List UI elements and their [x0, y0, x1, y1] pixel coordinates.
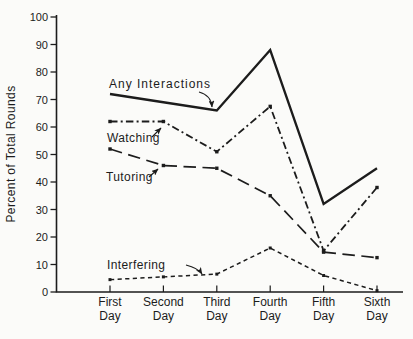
series-point-tutoring — [215, 167, 218, 170]
y-tick-label: 90 — [36, 39, 48, 51]
annotation-arrow — [199, 92, 212, 107]
y-axis-title: Percent of Total Rounds — [4, 85, 18, 222]
x-category-label: Fourth — [253, 295, 288, 309]
series-point-tutoring — [322, 250, 325, 253]
x-category-label-line2: Day — [206, 309, 227, 323]
series-point-interfering — [109, 278, 112, 281]
series-point-watching — [162, 120, 165, 123]
chart-figure: 0102030405060708090100Percent of Total R… — [0, 0, 413, 339]
line-chart: 0102030405060708090100Percent of Total R… — [0, 0, 413, 339]
x-category-label: Third — [203, 295, 230, 309]
x-category-label-line2: Day — [260, 309, 281, 323]
series-point-interfering — [162, 275, 165, 278]
series-point-tutoring — [269, 194, 272, 197]
x-category-label-line2: Day — [366, 309, 387, 323]
series-point-interfering — [215, 273, 218, 276]
y-tick-label: 50 — [36, 149, 48, 161]
x-category-label: First — [98, 295, 122, 309]
series-point-interfering — [322, 274, 325, 277]
series-annotation-label: Watching — [107, 131, 160, 145]
y-tick-label: 0 — [42, 286, 48, 298]
series-point-tutoring — [162, 164, 165, 167]
x-category-label: Second — [143, 295, 184, 309]
x-category-label: Sixth — [364, 295, 391, 309]
y-tick-label: 70 — [36, 94, 48, 106]
series-annotation-label: Tutoring — [106, 170, 153, 184]
y-tick-label: 20 — [36, 231, 48, 243]
x-category-label-line2: Day — [313, 309, 334, 323]
axes-frame — [57, 15, 404, 292]
series-annotation-label: Interfering — [107, 258, 165, 272]
x-category-label-line2: Day — [153, 309, 174, 323]
y-tick-label: 60 — [36, 121, 48, 133]
x-category-label-line2: Day — [99, 309, 120, 323]
annotation-arrow — [186, 265, 202, 274]
series-point-watching — [269, 105, 272, 108]
series-point-watching — [215, 150, 218, 153]
series-point-tutoring — [375, 256, 378, 259]
series-point-interfering — [269, 247, 272, 250]
y-tick-label: 10 — [36, 259, 48, 271]
y-tick-label: 30 — [36, 204, 48, 216]
y-tick-label: 100 — [30, 11, 48, 23]
series-annotation-label: Any Interactions — [109, 77, 211, 91]
series-point-watching — [108, 120, 111, 123]
series-point-watching — [375, 186, 378, 189]
series-line-tutoring — [110, 149, 377, 258]
y-tick-label: 40 — [36, 176, 48, 188]
series-point-tutoring — [108, 147, 111, 150]
y-tick-label: 80 — [36, 66, 48, 78]
x-category-label: Fifth — [312, 295, 335, 309]
series-point-interfering — [376, 289, 379, 292]
